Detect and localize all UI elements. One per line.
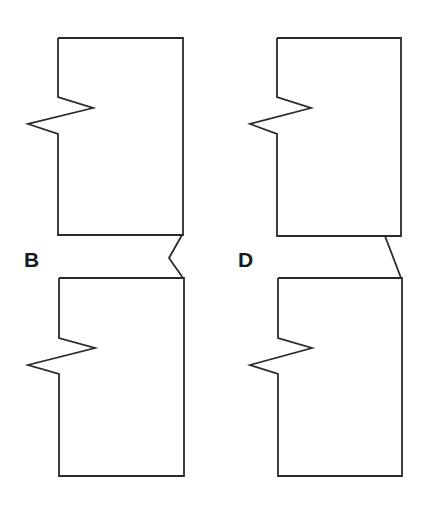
panel-b-top-block <box>28 38 183 235</box>
label-b: B <box>24 249 39 270</box>
panel-d-top-block <box>250 38 401 236</box>
diagram-canvas <box>0 0 431 505</box>
panel-d-bottom-block <box>250 278 402 476</box>
panel-d-connector <box>385 236 401 278</box>
panel-b-connector <box>169 235 183 278</box>
panel-b-bottom-block <box>28 278 184 476</box>
label-d: D <box>238 249 253 270</box>
